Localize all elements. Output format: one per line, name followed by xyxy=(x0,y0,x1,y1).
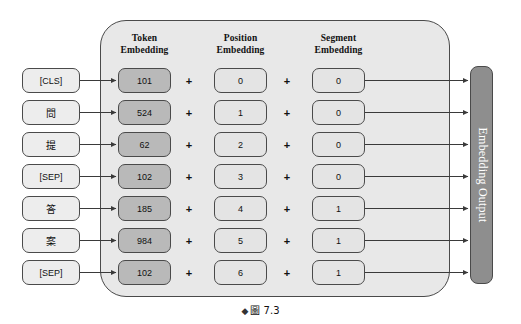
token-embedding-cell[interactable]: 101 xyxy=(118,68,171,93)
column-header-token-embedding-line2: Embedding xyxy=(108,45,181,57)
token-embedding-cell[interactable]: 102 xyxy=(118,260,171,285)
position-embedding-cell[interactable]: 4 xyxy=(214,196,267,221)
figure-caption-label: 圖 xyxy=(250,305,260,316)
token-embedding-cell[interactable]: 62 xyxy=(118,132,171,157)
plus-operator: + xyxy=(182,228,196,253)
segment-embedding-cell[interactable]: 1 xyxy=(312,196,365,221)
plus-operator: + xyxy=(182,260,196,285)
segment-embedding-cell[interactable]: 1 xyxy=(312,260,365,285)
plus-operator: + xyxy=(280,100,294,125)
token-embedding-cell[interactable]: 984 xyxy=(118,228,171,253)
token-label[interactable]: 問 xyxy=(22,100,80,125)
plus-operator: + xyxy=(280,260,294,285)
position-embedding-cell[interactable]: 2 xyxy=(214,132,267,157)
plus-operator: + xyxy=(280,228,294,253)
diamond-icon: ◆ xyxy=(241,306,248,316)
token-label[interactable]: [SEP] xyxy=(22,164,80,189)
column-header-position-embedding-line2: Embedding xyxy=(204,45,277,57)
column-header-position-embedding: Position Embedding xyxy=(204,33,277,56)
token-embedding-cell[interactable]: 102 xyxy=(118,164,171,189)
segment-embedding-cell[interactable]: 1 xyxy=(312,228,365,253)
token-embedding-cell[interactable]: 185 xyxy=(118,196,171,221)
segment-embedding-cell[interactable]: 0 xyxy=(312,164,365,189)
token-label[interactable]: [SEP] xyxy=(22,260,80,285)
position-embedding-cell[interactable]: 6 xyxy=(214,260,267,285)
embedding-output-label: Embedding Output xyxy=(474,128,489,223)
plus-operator: + xyxy=(182,164,196,189)
column-header-segment-embedding-line2: Embedding xyxy=(302,45,375,57)
token-label[interactable]: 案 xyxy=(22,228,80,253)
embedding-output-bar: Embedding Output xyxy=(470,66,493,284)
column-header-token-embedding: Token Embedding xyxy=(108,33,181,56)
segment-embedding-cell[interactable]: 0 xyxy=(312,132,365,157)
column-header-position-embedding-line1: Position xyxy=(204,33,277,45)
position-embedding-cell[interactable]: 5 xyxy=(214,228,267,253)
figure-caption-number: 7.3 xyxy=(264,305,280,316)
plus-operator: + xyxy=(182,100,196,125)
column-header-token-embedding-line1: Token xyxy=(108,33,181,45)
plus-operator: + xyxy=(280,196,294,221)
plus-operator: + xyxy=(280,132,294,157)
column-header-segment-embedding-line1: Segment xyxy=(302,33,375,45)
position-embedding-cell[interactable]: 3 xyxy=(214,164,267,189)
plus-operator: + xyxy=(182,196,196,221)
segment-embedding-cell[interactable]: 0 xyxy=(312,100,365,125)
figure-canvas: Token Embedding Position Embedding Segme… xyxy=(0,0,521,324)
figure-caption: ◆圖 7.3 xyxy=(0,302,521,317)
plus-operator: + xyxy=(280,68,294,93)
plus-operator: + xyxy=(182,68,196,93)
token-label[interactable]: 答 xyxy=(22,196,80,221)
plus-operator: + xyxy=(182,132,196,157)
token-embedding-cell[interactable]: 524 xyxy=(118,100,171,125)
token-label[interactable]: 提 xyxy=(22,132,80,157)
position-embedding-cell[interactable]: 1 xyxy=(214,100,267,125)
plus-operator: + xyxy=(280,164,294,189)
segment-embedding-cell[interactable]: 0 xyxy=(312,68,365,93)
embedding-panel xyxy=(100,20,450,297)
position-embedding-cell[interactable]: 0 xyxy=(214,68,267,93)
column-header-segment-embedding: Segment Embedding xyxy=(302,33,375,56)
token-label[interactable]: [CLS] xyxy=(22,68,80,93)
